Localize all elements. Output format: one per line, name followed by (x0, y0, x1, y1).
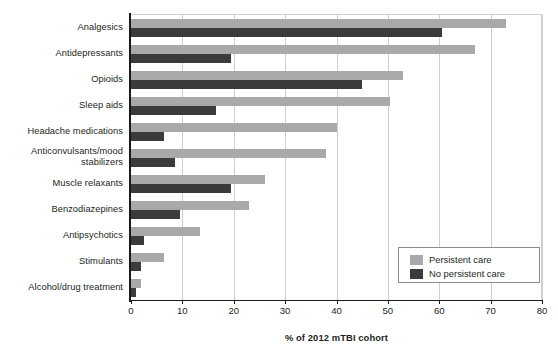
bar-no-persistent-care (131, 54, 231, 63)
legend-label-persistent-care: Persistent care (429, 254, 492, 265)
bar-persistent-care (131, 71, 403, 80)
x-axis-title: % of 2012 mTBI cohort (131, 332, 542, 343)
gridline (542, 15, 543, 301)
bar-no-persistent-care (131, 80, 362, 89)
category-axis-labels: AnalgesicsAntidepressantsOpioidsSleep ai… (0, 14, 127, 300)
x-tick-mark (131, 301, 132, 304)
legend-item-no-persistent-care: No persistent care (410, 267, 539, 280)
x-tick-mark (439, 301, 440, 304)
bar-no-persistent-care (131, 236, 144, 245)
category-label: Headache medications (0, 126, 123, 137)
x-tick-mark (337, 301, 338, 304)
bar-persistent-care (131, 201, 249, 210)
bar-persistent-care (131, 19, 506, 28)
x-tick-label: 40 (322, 305, 352, 316)
bar-no-persistent-care (131, 28, 442, 37)
x-tick-label: 70 (476, 305, 506, 316)
bar-no-persistent-care (131, 106, 216, 115)
x-tick-label: 10 (167, 305, 197, 316)
bar-no-persistent-care (131, 262, 141, 271)
bar-chart: AnalgesicsAntidepressantsOpioidsSleep ai… (0, 0, 558, 354)
x-tick-label: 0 (116, 305, 146, 316)
bar-persistent-care (131, 123, 337, 132)
y-axis-line (129, 13, 131, 302)
bar-no-persistent-care (131, 288, 136, 297)
bar-persistent-care (131, 279, 141, 288)
category-label: Sleep aids (0, 100, 123, 111)
gridline (388, 15, 389, 301)
category-label: Opioids (0, 74, 123, 85)
bar-no-persistent-care (131, 158, 175, 167)
x-tick-label: 20 (219, 305, 249, 316)
category-label: Stimulants (0, 256, 123, 267)
bar-no-persistent-care (131, 210, 180, 219)
bar-no-persistent-care (131, 184, 231, 193)
legend-swatch-icon-persistent-care (410, 255, 423, 265)
x-tick-mark (388, 301, 389, 304)
category-label: Analgesics (0, 22, 123, 33)
gridline (285, 15, 286, 301)
category-label: Antipsychotics (0, 230, 123, 241)
bar-persistent-care (131, 227, 200, 236)
category-label: Anticonvulsants/mood stabilizers (0, 146, 123, 167)
chart-legend: Persistent care No persistent care (398, 247, 540, 283)
bar-persistent-care (131, 253, 164, 262)
bar-persistent-care (131, 45, 475, 54)
x-tick-mark (542, 301, 543, 304)
gridline (234, 15, 235, 301)
category-label: Alcohol/drug treatment (0, 282, 123, 293)
bar-persistent-care (131, 97, 390, 106)
x-tick-label: 50 (373, 305, 403, 316)
x-tick-mark (285, 301, 286, 304)
legend-swatch-icon-no-persistent-care (410, 269, 423, 279)
x-tick-label: 30 (270, 305, 300, 316)
gridline (337, 15, 338, 301)
category-label: Antidepressants (0, 48, 123, 59)
bar-persistent-care (131, 149, 326, 158)
legend-label-no-persistent-care: No persistent care (429, 268, 505, 279)
legend-item-persistent-care: Persistent care (410, 253, 539, 266)
x-tick-label: 60 (424, 305, 454, 316)
category-label: Muscle relaxants (0, 178, 123, 189)
x-tick-mark (182, 301, 183, 304)
x-tick-label: 80 (527, 305, 557, 316)
category-label: Benzodiazepines (0, 204, 123, 215)
bar-no-persistent-care (131, 132, 164, 141)
x-tick-mark (491, 301, 492, 304)
x-tick-mark (234, 301, 235, 304)
bar-persistent-care (131, 175, 265, 184)
